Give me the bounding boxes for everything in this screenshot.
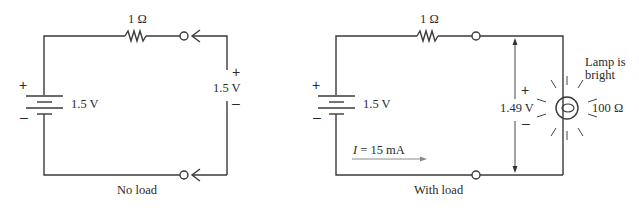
terminal-bottom <box>180 171 188 179</box>
meter-plus-sign: + <box>521 83 529 97</box>
resistor-icon <box>125 31 146 41</box>
caption-with-load: With load <box>414 184 463 197</box>
measured-voltage-label: 1.49 V <box>500 102 534 115</box>
wire-left-top <box>44 36 125 95</box>
resistor-label: 1 Ω <box>420 13 439 26</box>
meter-minus-sign: – <box>522 116 530 130</box>
terminal-top <box>472 32 480 40</box>
measured-voltage-label: 1.5 V <box>213 82 241 95</box>
battery-icon <box>318 96 355 114</box>
battery-plus-sign: + <box>19 78 27 92</box>
current-arrow-icon <box>352 157 427 162</box>
battery-icon <box>26 96 63 114</box>
wire-left-top <box>336 36 417 95</box>
resistor-icon <box>417 31 438 41</box>
caption-no-load: No load <box>117 184 157 197</box>
meter-plus-sign: + <box>232 65 240 79</box>
battery-voltage-label: 1.5 V <box>363 98 391 111</box>
lamp-icon <box>537 76 597 140</box>
lamp-resistance-label: 100 Ω <box>592 102 623 115</box>
wire-left-bottom <box>44 114 180 175</box>
battery-minus-sign: – <box>20 110 28 124</box>
battery-minus-sign: – <box>313 110 321 124</box>
no-load-circuit <box>26 30 227 181</box>
meter-minus-sign: – <box>232 96 240 110</box>
battery-plus-sign: + <box>312 78 320 92</box>
meter-lead-top <box>192 36 227 70</box>
terminal-top <box>180 32 188 40</box>
lamp-state-label-line1: Lamp is <box>585 56 626 69</box>
terminal-bottom <box>472 171 480 179</box>
resistor-label: 1 Ω <box>128 13 147 26</box>
battery-voltage-label: 1.5 V <box>71 98 99 111</box>
current-label: I = 15 mA <box>353 144 405 157</box>
current-value: = 15 mA <box>357 143 405 157</box>
lamp-state-label-line2: bright <box>585 69 615 82</box>
